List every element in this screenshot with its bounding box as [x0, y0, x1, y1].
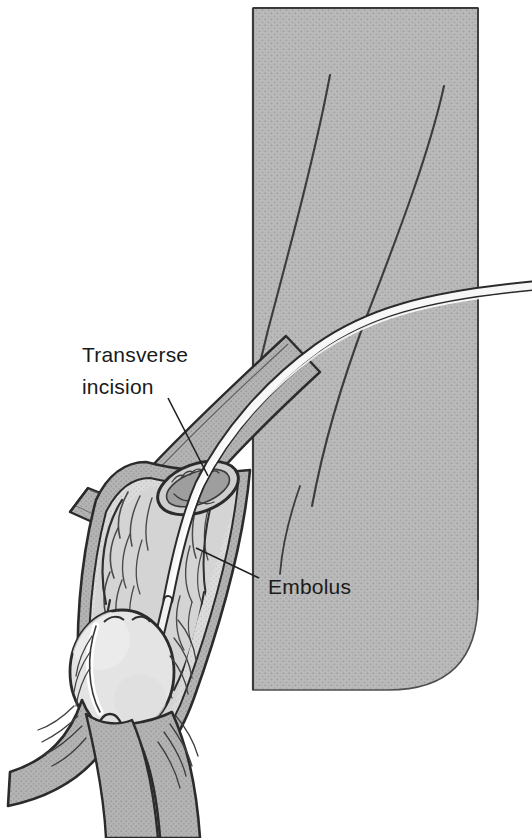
label-transverse-incision-line2: incision — [82, 375, 154, 398]
label-embolus: Embolus — [268, 575, 351, 598]
label-transverse-incision: Transverse incision — [82, 343, 188, 398]
label-embolus-line1: Embolus — [268, 575, 351, 598]
label-transverse-incision-line1: Transverse — [82, 343, 188, 366]
medical-illustration-figure: Transverse incision Embolus — [0, 0, 532, 838]
